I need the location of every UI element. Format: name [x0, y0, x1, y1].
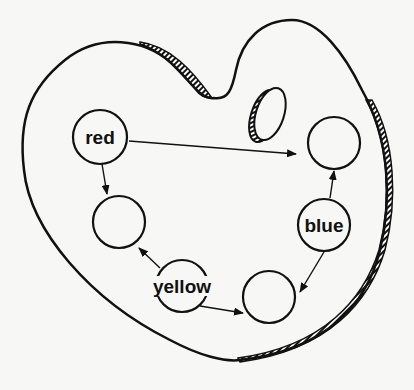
palette-outline: [23, 20, 387, 360]
node-red: red: [73, 110, 127, 164]
node-left-empty: [93, 196, 145, 248]
node-red-label: red: [85, 127, 115, 148]
arrow-blue-to-bottom: [300, 252, 324, 292]
palette-diagram: red blue yellow: [0, 0, 414, 390]
arrow-yellow-to-left: [139, 248, 160, 268]
arrow-blue-to-top-right: [330, 171, 334, 198]
node-blue: blue: [298, 199, 350, 251]
node-yellow-label: yellow: [153, 276, 211, 297]
palette-svg: red blue yellow: [0, 0, 414, 390]
thumb-hole: [243, 84, 291, 146]
arrow-yellow-to-bottom: [200, 306, 243, 313]
arrow-red-to-top-right: [129, 141, 296, 154]
node-blue-label: blue: [304, 215, 343, 236]
arrow-red-to-left: [102, 164, 107, 194]
node-bottom-empty: [243, 271, 295, 323]
node-top-right-empty: [308, 117, 360, 169]
